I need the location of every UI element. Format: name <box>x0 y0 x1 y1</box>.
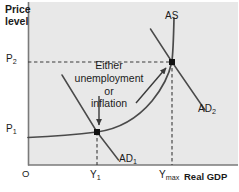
annotation-line-3: or <box>104 85 113 97</box>
x-tick-label-ymax: Ymax <box>159 170 179 181</box>
annotation-line-2: unemployment <box>75 72 144 84</box>
y-axis-title: Price level <box>5 4 51 28</box>
equilibrium-marker-ymax <box>169 59 175 65</box>
annotation-text-block: Either unemployment or inflation <box>66 59 152 110</box>
y-tick-p1-sub: 1 <box>13 127 17 136</box>
equilibrium-marker-y1 <box>94 129 100 135</box>
x-tick-y1-sub: 1 <box>97 173 101 182</box>
y-tick-p1-base: P <box>6 123 13 134</box>
origin-label: O <box>22 169 29 179</box>
y-tick-label-p2: P2 <box>6 54 17 65</box>
ad2-label-base: AD <box>198 103 212 114</box>
x-axis-title: Real GDP <box>184 172 227 182</box>
x-tick-label-y1: Y1 <box>90 170 101 181</box>
y-axis-title-line1: Price <box>5 3 31 15</box>
x-tick-y1-base: Y <box>90 169 97 180</box>
ad1-label-base: AD <box>119 153 133 164</box>
x-tick-ymax-base: Y <box>159 169 166 180</box>
annotation-line-4: inflation <box>91 97 127 109</box>
y-tick-label-p1: P1 <box>6 124 17 135</box>
aggregate-supply-demand-figure: Price level Real GDP P2 P1 O Y1 Ymax AS … <box>0 0 239 192</box>
as-curve-label: AS <box>165 11 178 22</box>
y-axis-title-line2: level <box>5 15 28 27</box>
y-tick-p2-sub: 2 <box>13 57 17 66</box>
annotation-line-1: Either <box>95 59 122 71</box>
x-tick-ymax-sub: max <box>166 173 180 182</box>
y-tick-p2-base: P <box>6 53 13 64</box>
ad1-curve-label: AD1 <box>119 154 137 165</box>
ad2-label-sub: 2 <box>212 107 216 116</box>
ad2-curve-label: AD2 <box>198 104 216 115</box>
ad1-label-sub: 1 <box>133 157 137 166</box>
